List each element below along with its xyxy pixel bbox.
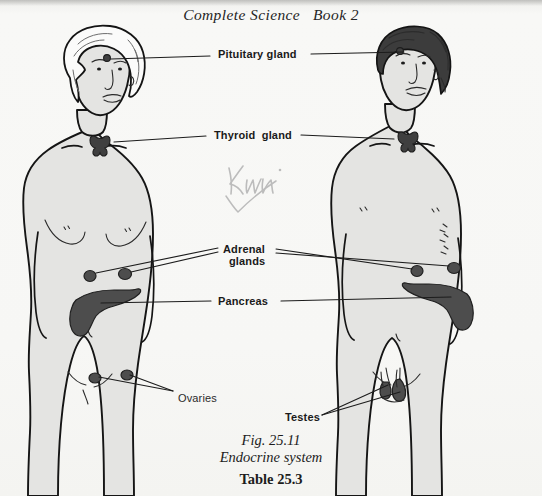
gland-pituitary — [397, 48, 404, 55]
gland-pituitary — [104, 55, 111, 62]
label-ovaries: Ovaries — [178, 392, 217, 405]
gland-adrenal-right — [448, 263, 461, 274]
label-thyroid-gland: Thyroid gland — [214, 129, 292, 142]
figure-title: Endocrine system — [0, 449, 542, 465]
label-adrenal-glands-line1: Adrenal — [223, 243, 265, 256]
gland-testis-right — [392, 379, 405, 401]
gland-adrenal-left — [411, 266, 423, 277]
book-title: Complete Science Book 2 — [0, 6, 542, 24]
label-pancreas: Pancreas — [218, 295, 268, 308]
label-testes: Testes — [285, 411, 320, 424]
gland-thyroid — [90, 136, 110, 156]
label-adrenal-glands-line2: glands — [229, 255, 265, 268]
gland-adrenal-left — [84, 271, 96, 282]
gland-adrenal-right — [119, 269, 132, 280]
endocrine-system-illustration: .bodyfill { fill:#e4e4e2; stroke:#151515… — [0, 0, 542, 496]
handwritten-annotation — [226, 166, 281, 212]
gland-ovary-left — [89, 373, 101, 383]
male-figure — [331, 26, 473, 496]
figure-number: Fig. 25.11 — [0, 432, 542, 448]
leader-thyroid-left — [114, 136, 206, 142]
label-pituitary-gland: Pituitary gland — [218, 48, 297, 61]
gland-thyroid — [398, 132, 418, 152]
scanned-textbook-page: .bodyfill { fill:#e4e4e2; stroke:#151515… — [0, 0, 542, 496]
table-number: Table 25.3 — [0, 471, 542, 488]
female-figure — [23, 26, 154, 496]
